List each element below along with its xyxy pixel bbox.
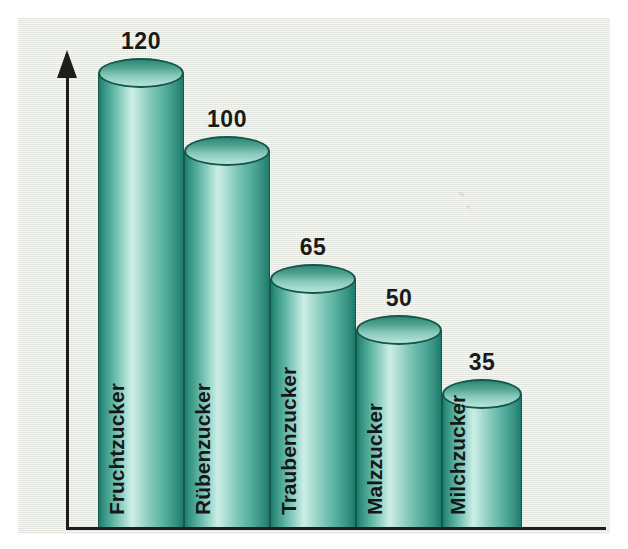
bar-value-label: 100 (184, 106, 270, 133)
bar-category-label-text: Milchzucker (446, 395, 470, 515)
bar-category-label-text: Traubenzucker (277, 367, 301, 515)
chart-figure: 120Fruchtzucker100Rübenzucker65Traubenzu… (0, 0, 628, 549)
bar-top-ellipse (98, 58, 184, 88)
bar-cylinder: 120Fruchtzucker (98, 73, 184, 527)
bar-cylinder: 100Rübenzucker (184, 151, 270, 527)
bar-top-ellipse (270, 264, 356, 294)
bar-category-label-text: Malzzucker (363, 403, 387, 515)
bar-cylinder: 65Traubenzucker (270, 279, 356, 527)
chart-panel: 120Fruchtzucker100Rübenzucker65Traubenzu… (18, 18, 610, 534)
bar-category-label-text: Fruchtzucker (105, 383, 129, 515)
bar-cylinder: 50Malzzucker (356, 330, 442, 527)
bar-category-label-text: Rübenzucker (191, 383, 215, 515)
bar-top-ellipse (184, 136, 270, 166)
bar-value-label: 120 (98, 28, 184, 55)
bar-value-label: 35 (442, 349, 522, 376)
bar-value-label: 50 (356, 285, 442, 312)
bars-layer: 120Fruchtzucker100Rübenzucker65Traubenzu… (18, 18, 610, 534)
bar-cylinder: 35Milchzucker (442, 394, 522, 527)
bar-value-label: 65 (270, 234, 356, 261)
bar-top-ellipse (356, 315, 442, 345)
